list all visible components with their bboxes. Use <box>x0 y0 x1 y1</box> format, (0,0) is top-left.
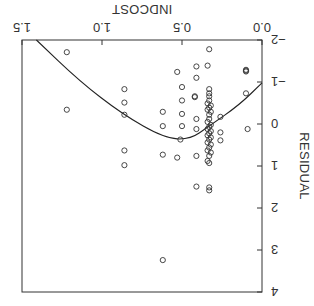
fitted-curve <box>36 40 262 139</box>
data-point <box>194 75 199 80</box>
y-tick-label: −2 <box>271 32 286 47</box>
data-point <box>179 111 184 116</box>
data-point <box>194 116 199 121</box>
x-tick-label: 1.0 <box>93 20 111 35</box>
data-point <box>205 63 210 68</box>
data-point <box>160 124 165 129</box>
y-tick-label: 1 <box>271 158 278 173</box>
y-tick-label: 0 <box>271 116 278 131</box>
data-point <box>160 257 165 262</box>
data-point <box>194 64 199 69</box>
data-point <box>207 47 212 52</box>
data-points <box>64 47 250 263</box>
data-point <box>218 130 223 135</box>
data-point <box>122 87 127 92</box>
data-point <box>194 184 199 189</box>
data-point <box>122 100 127 105</box>
plot-svg: 0.00.51.01.5 −2−101234 INDCOST RESIDUAL <box>0 0 314 306</box>
data-point <box>179 98 184 103</box>
data-point <box>245 126 250 131</box>
data-point <box>194 153 199 158</box>
data-point <box>179 84 184 89</box>
x-tick-label: 0.0 <box>253 20 271 35</box>
x-tick-label: 0.5 <box>173 20 191 35</box>
y-tick-label: −1 <box>271 74 286 89</box>
x-tick-label: 1.5 <box>13 20 31 35</box>
plot-frame <box>22 40 262 292</box>
y-axis-title: RESIDUAL <box>297 132 312 199</box>
scatter-chart: 0.00.51.01.5 −2−101234 INDCOST RESIDUAL <box>0 0 314 306</box>
data-point <box>194 126 199 131</box>
data-point <box>64 107 69 112</box>
data-point <box>160 152 165 157</box>
y-tick-label: 3 <box>271 242 278 257</box>
y-axis-ticks: −2−101234 <box>257 32 286 299</box>
data-point <box>122 148 127 153</box>
data-point <box>175 155 180 160</box>
y-tick-label: 4 <box>271 284 278 299</box>
data-point <box>64 50 69 55</box>
data-point <box>175 69 180 74</box>
data-point <box>178 137 183 142</box>
x-axis-ticks: 0.00.51.01.5 <box>13 20 271 45</box>
data-point <box>179 124 184 129</box>
data-point <box>122 163 127 168</box>
y-tick-label: 2 <box>271 200 278 215</box>
data-point <box>160 109 165 114</box>
data-point <box>243 91 248 96</box>
x-axis-title: INDCOST <box>112 2 173 17</box>
data-point <box>218 138 223 143</box>
